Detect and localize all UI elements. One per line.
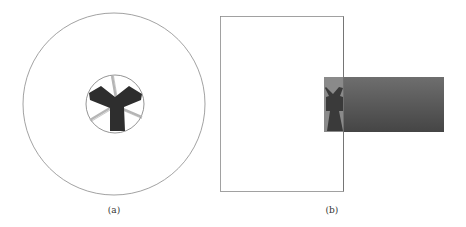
panel-b-label: (b) (326, 205, 339, 215)
panel-b-diagram (221, 17, 445, 192)
figure-canvas (0, 0, 466, 227)
panel-a-diagram (23, 13, 205, 195)
panel-a-label: (a) (108, 205, 120, 215)
